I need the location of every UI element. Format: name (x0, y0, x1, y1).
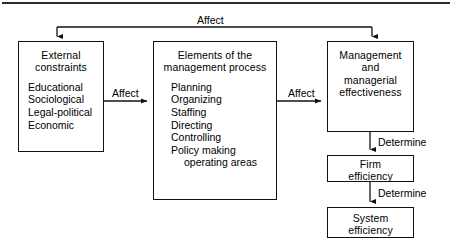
node-external-heading-line2: constraints (19, 61, 103, 73)
node-management-line4: effectiveness (328, 86, 413, 98)
node-external-items: Educational Sociological Legal-political… (28, 81, 103, 131)
node-external-item-3: Economic (28, 119, 74, 131)
node-elements-item-1: Organizing (171, 93, 222, 105)
node-management-line3: managerial (328, 74, 413, 86)
node-external-constraints: External constraints Educational Sociolo… (18, 41, 104, 152)
node-management-line1: Management (328, 49, 413, 61)
node-management-process: Elements of the management process Plann… (153, 41, 277, 200)
node-firm-efficiency: Firm efficiency (327, 155, 414, 182)
edge-label-affect-elements-to-management: Affect (288, 87, 315, 99)
node-system-efficiency: System efficiency (327, 207, 414, 238)
edge-label-determine-system: Determine (378, 187, 426, 199)
node-elements-item-3: Directing (171, 119, 212, 131)
edge-label-determine-firm: Determine (378, 136, 426, 148)
node-firm-line2: efficiency (328, 170, 413, 182)
node-elements-item-2: Staffing (171, 106, 206, 118)
node-elements-items: Planning Organizing Staffing Directing C… (171, 81, 276, 169)
diagram-canvas: Affect Affect Affect Determine Determine… (0, 0, 452, 252)
node-elements-item-0: Planning (171, 81, 212, 93)
node-firm-line1: Firm (328, 158, 413, 170)
node-elements-item-4: Controlling (171, 131, 221, 143)
node-elements-heading-line1: Elements of the (154, 49, 276, 61)
node-elements-item-6: operating areas (171, 156, 276, 169)
node-elements-item-5: Policy making (171, 144, 236, 156)
edge-label-affect-external-to-elements: Affect (112, 87, 139, 99)
node-system-line2: efficiency (328, 224, 413, 236)
node-external-heading-line1: External (19, 49, 103, 61)
node-management-line2: and (328, 61, 413, 73)
node-external-item-0: Educational (28, 81, 83, 93)
node-elements-heading-line2: management process (154, 61, 276, 73)
edge-label-affect-feedback: Affect (197, 14, 224, 26)
node-management-effectiveness: Management and managerial effectiveness (327, 41, 414, 132)
node-external-item-2: Legal-political (28, 106, 92, 118)
node-system-line1: System (328, 212, 413, 224)
top-divider-rule (2, 2, 450, 4)
node-external-item-1: Sociological (28, 93, 84, 105)
